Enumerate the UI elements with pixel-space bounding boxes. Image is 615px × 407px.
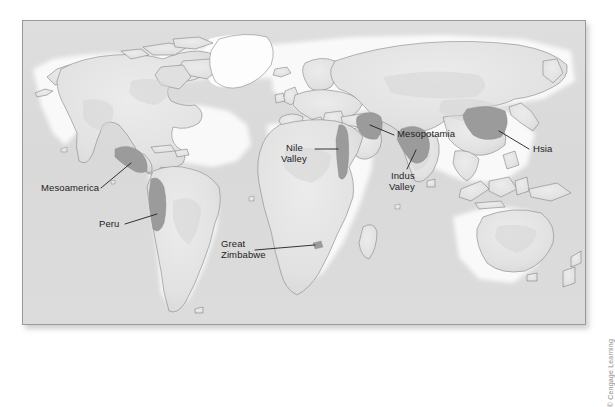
world-map-svg (23, 21, 586, 325)
label-indus-valley-line1: Indus (391, 171, 415, 182)
label-mesoamerica: Mesoamerica (41, 183, 99, 194)
land-new-zealand-n (571, 251, 581, 267)
land-ireland (275, 93, 285, 103)
land-falklands (195, 307, 203, 313)
label-great-zimbabwe-line2: Zimbabwe (221, 250, 266, 261)
region-peru (149, 178, 166, 231)
label-nile-valley-line1: Nile (286, 143, 303, 154)
label-mesopotamia: Mesopotamia (397, 129, 455, 140)
label-peru: Peru (99, 219, 119, 230)
land-borneo (489, 177, 517, 197)
map-frame: Mesoamerica Peru Great Zimbabwe Nile Val… (22, 20, 586, 325)
land-islet-pacific-2 (111, 180, 115, 184)
leader-mesoamerica (101, 163, 131, 188)
land-sulawesi (515, 177, 529, 195)
land-islet-indian (395, 204, 400, 209)
label-nile-valley-line2: Valley (281, 154, 307, 165)
land-tasmania (527, 273, 537, 281)
label-indus-valley-line2: Valley (389, 182, 415, 193)
label-hsia: Hsia (533, 144, 552, 155)
land-islet-atlantic (249, 196, 254, 201)
land-greenland (210, 34, 274, 88)
land-new-zealand-s (563, 267, 575, 287)
land-madagascar (359, 225, 377, 259)
label-great-zimbabwe-line1: Great (221, 239, 245, 250)
land-islet-pacific-1 (61, 147, 67, 152)
copyright-credit: © Cengage Learning (607, 339, 614, 407)
land-sri-lanka (427, 179, 435, 187)
land-new-guinea (529, 183, 571, 201)
land-sumatra (459, 181, 489, 201)
